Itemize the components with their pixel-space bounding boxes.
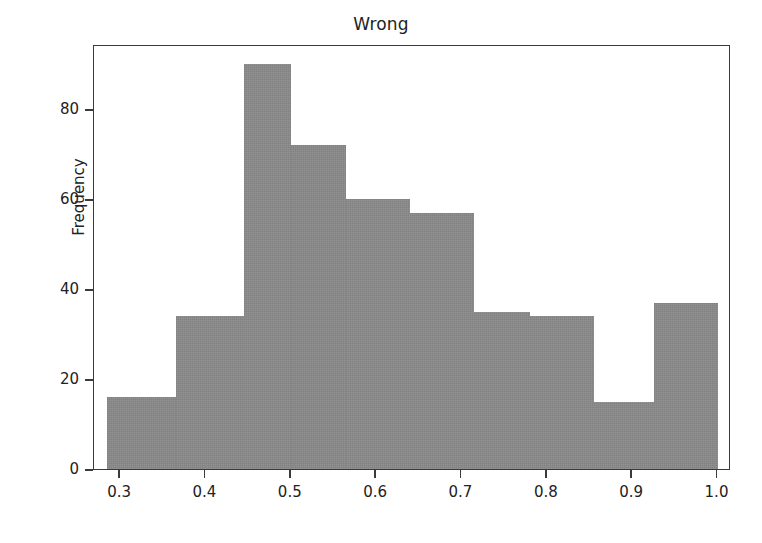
figure-canvas: Wrong Frequency 020406080 0.30.40.50.60.… xyxy=(0,0,762,543)
x-tick-mark xyxy=(460,470,462,478)
y-tick-label: 20 xyxy=(19,370,79,388)
histogram-bar xyxy=(346,199,410,469)
x-tick-label: 0.4 xyxy=(169,483,239,501)
histogram-bar xyxy=(530,316,594,469)
x-tick-label: 1.0 xyxy=(682,483,752,501)
chart-title: Wrong xyxy=(0,14,762,34)
histogram-bar xyxy=(474,312,529,469)
histogram-bar xyxy=(410,213,474,469)
x-tick-mark xyxy=(289,470,291,478)
y-tick-label: 80 xyxy=(19,100,79,118)
y-tick-label: 0 xyxy=(19,460,79,478)
y-tick-mark xyxy=(85,379,93,381)
x-tick-mark xyxy=(545,470,547,478)
y-tick-mark xyxy=(85,289,93,291)
x-tick-label: 0.3 xyxy=(84,483,154,501)
y-tick-mark xyxy=(85,469,93,471)
x-tick-mark xyxy=(630,470,632,478)
histogram-bar xyxy=(176,316,244,469)
x-tick-label: 0.5 xyxy=(255,483,325,501)
histogram-bar xyxy=(594,402,654,469)
y-tick-label: 60 xyxy=(19,190,79,208)
y-tick-mark xyxy=(85,109,93,111)
x-tick-mark xyxy=(118,470,120,478)
y-tick-label: 40 xyxy=(19,280,79,298)
histogram-bar xyxy=(244,64,291,469)
histogram-bar xyxy=(654,303,718,469)
histogram-bar xyxy=(291,145,346,469)
x-tick-mark xyxy=(716,470,718,478)
x-tick-mark xyxy=(374,470,376,478)
x-tick-label: 0.7 xyxy=(425,483,495,501)
histogram-bar xyxy=(107,397,175,469)
x-tick-mark xyxy=(204,470,206,478)
x-tick-label: 0.6 xyxy=(340,483,410,501)
y-tick-mark xyxy=(85,199,93,201)
plot-area xyxy=(93,45,730,470)
x-tick-label: 0.9 xyxy=(596,483,666,501)
x-tick-label: 0.8 xyxy=(511,483,581,501)
